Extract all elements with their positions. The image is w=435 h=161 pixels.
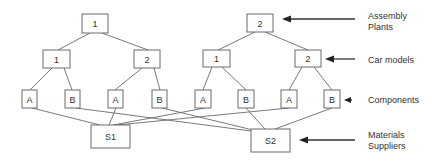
model-label: 2 [144, 55, 149, 65]
level-label-materials: Materials [368, 130, 405, 140]
plant-label: 2 [257, 19, 262, 29]
edges-plant-model [58, 32, 308, 50]
component-label: A [200, 95, 206, 105]
supplier-node-s2[interactable]: S2 [251, 129, 290, 152]
component-label: B [243, 95, 249, 105]
component-label: A [286, 95, 292, 105]
level-label-assembly: Assembly [368, 11, 408, 21]
component-node-b[interactable]: B [324, 90, 340, 108]
supplier-label: S2 [265, 136, 276, 146]
component-node-b[interactable]: B [238, 90, 254, 108]
component-label: B [156, 95, 162, 105]
supplier-node-s1[interactable]: S1 [91, 125, 130, 148]
component-label: B [69, 95, 75, 105]
plant-label: 1 [92, 19, 97, 29]
model-label: 1 [54, 55, 59, 65]
component-node-a[interactable]: A [281, 90, 297, 108]
model-node-p1-m2[interactable]: 2 [134, 50, 160, 68]
component-node-a[interactable]: A [195, 90, 211, 108]
level-label-suppliers: Suppliers [368, 141, 406, 151]
component-node-b[interactable]: B [65, 90, 80, 108]
edges-component-supplier [32, 108, 332, 131]
edges-model-component [30, 67, 332, 90]
arrow-materials-suppliers [299, 137, 355, 144]
supply-chain-diagram: 1 2 1 2 1 2 A B A B A B [0, 0, 435, 161]
model-node-p1-m1[interactable]: 1 [43, 50, 70, 68]
component-node-a[interactable]: A [108, 90, 123, 108]
level-label-car-models: Car models [368, 55, 415, 65]
arrow-components [344, 97, 352, 103]
level-label-components: Components [368, 95, 420, 105]
arrow-car-models [325, 56, 355, 63]
arrow-assembly-plants [282, 16, 355, 23]
model-node-p2-m2[interactable]: 2 [295, 50, 321, 67]
component-label: A [26, 95, 32, 105]
plant-node-2[interactable]: 2 [247, 14, 273, 32]
model-label: 2 [305, 54, 310, 64]
component-node-b[interactable]: B [152, 90, 167, 108]
model-label: 1 [214, 54, 219, 64]
component-label: B [329, 95, 335, 105]
plant-node-1[interactable]: 1 [82, 14, 108, 33]
component-label: A [112, 95, 118, 105]
component-node-a[interactable]: A [22, 90, 37, 108]
model-node-p2-m1[interactable]: 1 [203, 50, 230, 67]
level-label-plants: Plants [368, 22, 394, 32]
supplier-label: S1 [105, 132, 116, 142]
